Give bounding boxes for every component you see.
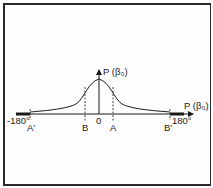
distribution-diagram: P (β₀) P (β₀) -180° 0 180° A′ B A B′ [0,0,213,188]
marker-label-a: A [110,122,117,133]
distribution-curve [30,79,170,112]
marker-label-a-prime: A′ [27,122,35,133]
vertical-axis-label: P (β₀) [103,66,128,77]
tick-label-center: 0 [96,115,101,126]
tick-label-right: 180° [172,115,192,126]
horizontal-axis-label: P (β₀) [184,100,209,111]
marker-label-b: B [82,122,88,133]
marker-label-b-prime: B′ [164,122,172,133]
